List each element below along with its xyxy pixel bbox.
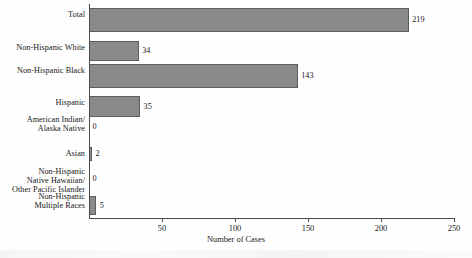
- value-label-nh-white: 34: [142, 46, 150, 55]
- category-label-hispanic: Hispanic: [55, 98, 85, 107]
- x-tick-label-250: 250: [448, 224, 461, 234]
- x-tick-50: [162, 218, 163, 222]
- category-label-nh-white: Non-Hispanic White: [16, 43, 85, 52]
- value-label-amind-aknative: 0: [93, 122, 97, 131]
- value-label-nhpi: 0: [93, 174, 97, 183]
- category-label-asian: Asian: [66, 149, 85, 158]
- x-tick-200: [381, 218, 382, 222]
- value-label-multiple-races: 5: [100, 201, 104, 210]
- x-tick-label-200: 200: [375, 224, 388, 234]
- value-label-total: 219: [412, 15, 424, 24]
- category-label-total: Total: [68, 10, 85, 19]
- category-label-multiple-races: Non-Hispanic Multiple Races: [35, 192, 86, 210]
- value-label-nh-black: 143: [301, 71, 313, 80]
- bar-multiple-races: [89, 196, 96, 215]
- plot-area: 219 34 143 35 0 2 0 5: [89, 0, 472, 258]
- category-axis-labels: Total Non-Hispanic White Non-Hispanic Bl…: [0, 0, 85, 218]
- x-tick-label-50: 50: [158, 224, 166, 234]
- bar-chart: Total Non-Hispanic White Non-Hispanic Bl…: [0, 0, 472, 258]
- x-axis-line: [89, 218, 455, 219]
- x-axis-title: Number of Cases: [0, 235, 472, 245]
- category-label-amind-aknative: American Indian/ Alaska Native: [27, 115, 85, 133]
- bar-nh-black: [89, 64, 298, 88]
- bar-total: [89, 8, 409, 32]
- y-axis-line: [89, 4, 90, 218]
- x-tick-label-100: 100: [229, 224, 242, 234]
- bar-nh-white: [89, 41, 139, 61]
- x-tick-250: [454, 218, 455, 222]
- value-label-hispanic: 35: [144, 102, 152, 111]
- category-label-nhpi: Non-Hispanic Native Hawaiian/ Other Paci…: [12, 167, 85, 195]
- bar-hispanic: [89, 96, 140, 117]
- category-label-nh-black: Non-Hispanic Black: [17, 66, 85, 75]
- value-label-asian: 2: [95, 149, 99, 158]
- x-tick-150: [308, 218, 309, 222]
- x-tick-label-150: 150: [302, 224, 315, 234]
- x-tick-100: [235, 218, 236, 222]
